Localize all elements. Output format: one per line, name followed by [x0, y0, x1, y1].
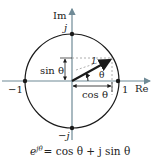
- point-minus-1: [23, 79, 27, 83]
- label-theta: θ: [99, 70, 104, 80]
- label-minus-j: −j: [58, 130, 69, 141]
- label-cos-theta: cos θ: [82, 89, 108, 100]
- point-j: [70, 32, 74, 36]
- euler-equation: ejθ= cos θ + j sin θ: [30, 145, 130, 157]
- label-minus-1: −1: [8, 84, 23, 95]
- label-magnitude: 1: [91, 56, 97, 66]
- angle-arc: [86, 73, 88, 81]
- label-sin-theta: sin θ: [40, 65, 64, 76]
- label-1: 1: [122, 84, 128, 95]
- unit-circle-diagram: Im Re j −j −1 1 1 θ sin θ cos θ ejθ= cos…: [0, 0, 157, 159]
- label-j: j: [62, 22, 67, 33]
- point-1: [116, 79, 120, 83]
- real-axis-label: Re: [135, 83, 149, 94]
- imag-axis-label: Im: [53, 10, 67, 21]
- point-minus-j: [70, 126, 74, 130]
